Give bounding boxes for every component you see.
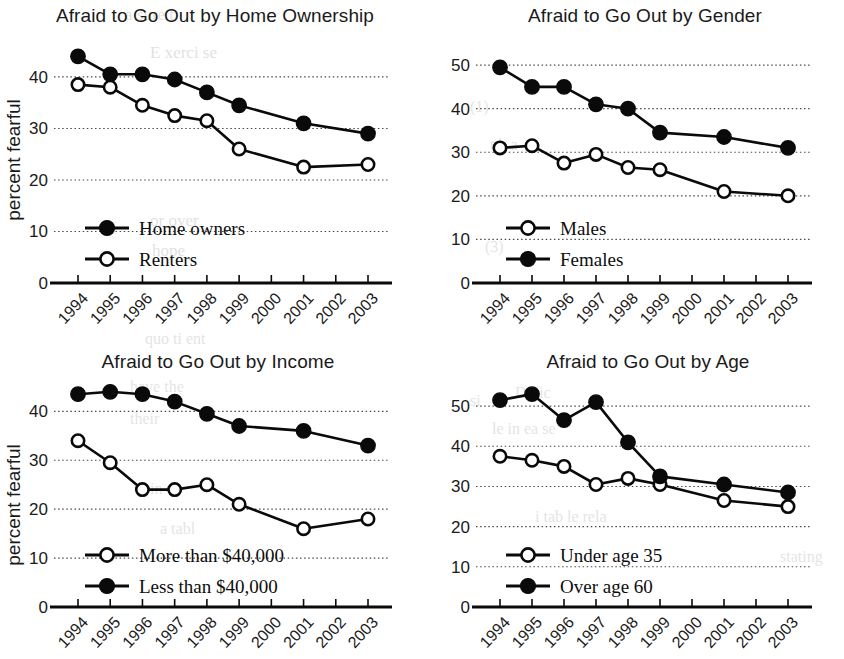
x-tick-label: 2000	[668, 289, 705, 327]
svg-text:(3): (3)	[485, 238, 504, 256]
x-tick-label: 2001	[280, 613, 317, 651]
chart-panel-home-ownership: a sure t E xerci se or over hope Afraid …	[0, 0, 430, 330]
data-point-open	[526, 140, 538, 152]
y-tick-label: 40	[29, 402, 48, 421]
data-point-open	[233, 498, 245, 510]
data-point-filled	[71, 387, 85, 401]
series-line	[500, 456, 788, 506]
legend: Under age 35Over age 60	[506, 545, 662, 597]
y-tick-label: 0	[39, 274, 48, 293]
bleed-layer: si Defic le in ea se i tab le rela stati…	[470, 384, 823, 566]
x-axis	[50, 275, 392, 283]
series-layer	[71, 49, 375, 173]
legend-label: More than $40,000	[139, 545, 284, 566]
data-point-open	[297, 523, 309, 535]
data-point-filled	[103, 67, 117, 81]
y-tick-label: 30	[29, 451, 48, 470]
data-point-open	[362, 158, 374, 170]
data-point-filled	[361, 126, 375, 140]
data-point-filled	[71, 49, 85, 63]
data-point-open	[526, 454, 538, 466]
svg-text:stating: stating	[780, 548, 823, 566]
legend-marker-filled	[100, 221, 115, 236]
data-point-filled	[168, 72, 182, 86]
data-point-filled	[653, 469, 667, 483]
data-point-filled	[717, 130, 731, 144]
y-tick-label: 30	[451, 143, 470, 162]
x-tick-labels: 1994199519961997199819992000200120022003	[476, 289, 801, 327]
x-tick-label: 2003	[764, 613, 801, 651]
x-tick-label: 2001	[280, 289, 317, 327]
svg-text:a tabl: a tabl	[160, 520, 196, 537]
chart-income: quo ti ent have the their in a tabl Afra…	[0, 330, 430, 659]
x-tick-label: 1996	[119, 289, 156, 327]
x-tick-label: 1994	[476, 289, 513, 327]
y-tick-label: 10	[29, 222, 48, 241]
x-tick-label: 2001	[700, 613, 737, 651]
data-point-filled	[557, 80, 571, 94]
data-point-open	[782, 190, 794, 202]
gridlines	[54, 411, 390, 558]
data-point-open	[136, 99, 148, 111]
y-tick-labels: 010203040	[29, 402, 48, 617]
data-point-filled	[653, 125, 667, 139]
data-point-open	[558, 157, 570, 169]
legend-marker-open	[521, 548, 534, 561]
data-point-open	[718, 185, 730, 197]
legend: More than $40,000Less than $40,000	[85, 545, 284, 597]
chart-title: Afraid to Go Out by Home Ownership	[56, 5, 374, 26]
legend-label: Over age 60	[560, 576, 653, 597]
data-point-filled	[525, 80, 539, 94]
figure-grid: a sure t E xerci se or over hope Afraid …	[0, 0, 844, 659]
data-point-open	[494, 142, 506, 154]
data-point-filled	[103, 385, 117, 399]
data-point-open	[494, 450, 506, 462]
gridlines	[54, 77, 390, 232]
y-tick-label: 20	[451, 518, 470, 537]
data-point-filled	[493, 393, 507, 407]
data-point-filled	[361, 438, 375, 452]
x-axis	[472, 599, 812, 607]
y-tick-labels: 010203040	[29, 68, 48, 293]
data-point-filled	[232, 98, 246, 112]
y-tick-label: 20	[29, 500, 48, 519]
x-tick-label: 2003	[344, 613, 381, 651]
data-point-open	[136, 483, 148, 495]
svg-text:E xerci se: E xerci se	[150, 43, 217, 62]
svg-text:quo ti ent: quo ti ent	[145, 330, 206, 348]
data-point-open	[622, 161, 634, 173]
data-point-filled	[296, 424, 310, 438]
x-tick-label: 1997	[151, 289, 188, 327]
x-tick-label: 1998	[604, 613, 641, 651]
data-point-filled	[525, 387, 539, 401]
svg-text:si: si	[470, 392, 481, 409]
chart-panel-income: quo ti ent have the their in a tabl Afra…	[0, 330, 430, 659]
y-tick-label: 10	[29, 549, 48, 568]
legend: MalesFemales	[506, 218, 623, 270]
x-tick-label: 2002	[312, 289, 349, 327]
data-point-filled	[493, 60, 507, 74]
y-tick-label: 0	[461, 598, 470, 617]
data-point-open	[72, 435, 84, 447]
x-axis	[50, 599, 392, 607]
data-point-open	[297, 161, 309, 173]
x-tick-label: 2000	[248, 289, 285, 327]
x-tick-label: 1995	[87, 289, 124, 327]
legend-label: Less than $40,000	[139, 576, 278, 597]
series-line	[78, 441, 368, 529]
x-tick-label: 2003	[764, 289, 801, 327]
y-axis-label: percent fearful	[3, 99, 24, 220]
y-tick-label: 50	[451, 56, 470, 75]
x-tick-label: 1997	[572, 613, 609, 651]
y-tick-label: 30	[29, 119, 48, 138]
data-point-open	[233, 143, 245, 155]
legend-label: Renters	[139, 249, 197, 270]
data-point-filled	[135, 67, 149, 81]
legend-marker-open	[521, 221, 534, 234]
bleed-layer: (1) t h a (3)	[470, 98, 518, 256]
chart-title: Afraid to Go Out by Income	[102, 351, 335, 372]
y-tick-labels: 01020304050	[451, 397, 470, 617]
data-point-open	[718, 494, 730, 506]
data-point-open	[104, 81, 116, 93]
chart-title: Afraid to Go Out by Gender	[528, 5, 762, 26]
